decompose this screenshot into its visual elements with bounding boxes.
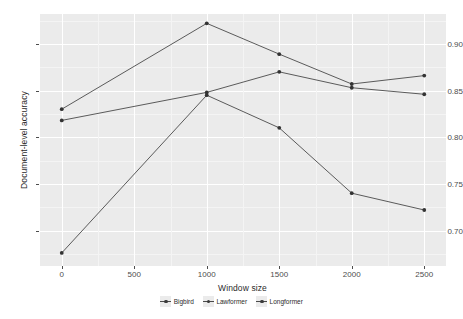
- y-tick-mark: [36, 44, 39, 45]
- legend-label: Bigbird: [174, 298, 194, 305]
- data-point: [350, 86, 354, 90]
- data-point: [205, 93, 209, 97]
- x-tick-mark: [352, 266, 353, 269]
- y-tick-mark: [36, 137, 39, 138]
- legend-label: Lawformer: [216, 298, 247, 305]
- x-tick-label: 1000: [177, 270, 237, 279]
- y-tick-label: 0.75: [433, 179, 463, 188]
- legend-marker-icon: [203, 296, 214, 307]
- x-tick-mark: [279, 266, 280, 269]
- data-point: [350, 191, 354, 195]
- chart-container: Document-level accuracy 0.700.750.800.85…: [0, 0, 463, 319]
- y-tick-mark: [36, 184, 39, 185]
- legend-label: Longformer: [270, 298, 303, 305]
- data-point: [60, 107, 64, 111]
- data-point: [60, 251, 64, 255]
- x-tick-label: 2000: [322, 270, 382, 279]
- legend-item-bigbird[interactable]: Bigbird: [160, 296, 194, 307]
- x-axis-title: Window size: [40, 283, 445, 293]
- data-point: [277, 52, 281, 56]
- x-tick-label: 1500: [249, 270, 309, 279]
- data-point: [422, 208, 426, 212]
- y-tick-label: 0.70: [433, 226, 463, 235]
- x-tick-label: 500: [104, 270, 164, 279]
- series-line: [62, 23, 425, 109]
- legend-item-longformer[interactable]: Longformer: [256, 296, 303, 307]
- series-line: [62, 72, 425, 121]
- legend-marker-icon: [160, 296, 171, 307]
- x-tick-label: 0: [32, 270, 92, 279]
- data-point: [60, 119, 64, 123]
- legend-marker-icon: [256, 296, 267, 307]
- y-tick-label: 0.85: [433, 86, 463, 95]
- y-axis-title: Document-level accuracy: [19, 40, 29, 240]
- x-tick-mark: [62, 266, 63, 269]
- y-tick-label: 0.90: [433, 39, 463, 48]
- series-bigbird: [60, 21, 426, 111]
- x-tick-mark: [207, 266, 208, 269]
- data-point: [277, 126, 281, 130]
- series-line: [62, 95, 425, 253]
- y-tick-mark: [36, 231, 39, 232]
- data-point: [350, 82, 354, 86]
- legend-item-lawformer[interactable]: Lawformer: [203, 296, 247, 307]
- y-tick-label: 0.80: [433, 133, 463, 142]
- plot-panel: [40, 14, 446, 266]
- x-tick-mark: [424, 266, 425, 269]
- data-point: [277, 70, 281, 74]
- series-longformer: [60, 93, 426, 255]
- data-point: [422, 74, 426, 78]
- chart-legend: BigbirdLawformerLongformer: [0, 296, 463, 307]
- x-tick-label: 2500: [394, 270, 454, 279]
- y-tick-mark: [36, 91, 39, 92]
- x-tick-mark: [134, 266, 135, 269]
- data-point: [422, 92, 426, 96]
- data-point: [205, 21, 209, 25]
- series-layer: [40, 14, 446, 266]
